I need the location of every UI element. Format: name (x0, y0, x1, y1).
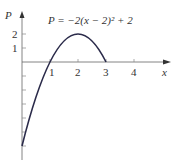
x-tick-label-2: 2 (75, 66, 81, 78)
x-tick-label-1: 1 (49, 66, 55, 78)
chart: P 2 1 1 2 3 4 x P = −2(x − 2)² + 2 (0, 0, 174, 161)
y-axis-label: P (4, 9, 12, 21)
y-tick-label-2: 2 (12, 28, 18, 40)
y-axis-arrow-icon (20, 11, 25, 18)
x-axis-arrow-icon (163, 60, 171, 65)
equation-label: P = −2(x − 2)² + 2 (47, 14, 133, 27)
x-tick-label-3: 3 (103, 66, 109, 78)
x-tick-label-4: 4 (131, 66, 137, 78)
x-axis-label: x (161, 66, 167, 78)
curve-series (22, 34, 106, 146)
y-tick-label-1: 1 (12, 42, 18, 54)
x-ticks (50, 59, 134, 62)
y-ticks (22, 34, 26, 146)
